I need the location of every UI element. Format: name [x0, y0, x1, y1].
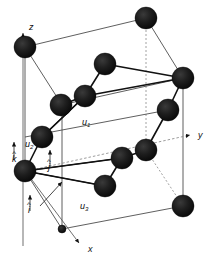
atom-bottom-mid [94, 175, 116, 197]
u2-arrow [25, 158, 122, 171]
u1-subscript: 1 [87, 122, 90, 128]
unit-vector-label-k: ^ k [12, 155, 17, 164]
atom-right-upper [172, 67, 194, 89]
atom-top-right-back [135, 7, 157, 29]
atom-bottom-origin [58, 225, 66, 233]
axis-label-y: y [198, 131, 203, 140]
hat-accent-j: ^ [47, 158, 51, 166]
displacement-label-u2: u2 [25, 140, 33, 150]
atom-bottom-right [172, 195, 194, 217]
atom-top-left-back [14, 36, 36, 58]
atom-upper-mid [94, 53, 116, 75]
u3-subscript: 3 [85, 206, 88, 212]
bond-4 [85, 78, 183, 96]
atom-left-front [14, 160, 36, 182]
u1-arrow [25, 171, 105, 186]
axis-label-z: z [29, 23, 34, 32]
unit-vector-label-i: ^ i [28, 206, 30, 215]
edge-top-back [25, 18, 146, 47]
x-axis [26, 172, 79, 243]
atom-mid-left-a [50, 94, 72, 116]
i-hat-diagonal [40, 182, 62, 206]
bond-2 [105, 64, 183, 78]
atom-mid-center-a [74, 85, 96, 107]
u2-subscript: 2 [30, 144, 33, 150]
axis-label-x: x [88, 245, 93, 254]
hat-accent-i: ^ [27, 201, 31, 209]
atom-right-mid [157, 99, 179, 121]
atom-left-mid [31, 126, 53, 148]
unit-vector-label-j: ^ j [48, 163, 50, 172]
atom-center-low-b [135, 139, 157, 161]
atom-center-low [111, 147, 133, 169]
cell-edge-group [25, 18, 183, 229]
lattice-diagram-svg [0, 0, 213, 262]
hat-accent-k: ^ [12, 150, 16, 158]
crystal-structure-figure: z y x ^ i ^ j ^ k u1 u2 u3 [0, 0, 213, 262]
atom-group [14, 7, 194, 233]
displacement-label-u1: u1 [82, 118, 90, 128]
displacement-label-u3: u3 [80, 202, 88, 212]
